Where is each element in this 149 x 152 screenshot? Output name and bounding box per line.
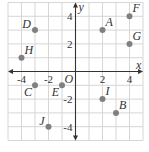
point-label-f: F bbox=[132, 1, 141, 15]
x-tick-label: 2 bbox=[100, 73, 106, 85]
x-tick-label: -2 bbox=[44, 73, 53, 85]
x-axis-label: x bbox=[135, 58, 142, 72]
point-label-g: G bbox=[133, 29, 142, 43]
point-label-e: E bbox=[51, 85, 60, 99]
y-tick-label: 4 bbox=[67, 10, 73, 22]
point-label-d: D bbox=[21, 17, 31, 31]
origin-label: O bbox=[65, 72, 74, 86]
y-axis-label: y bbox=[78, 0, 85, 14]
y-axis-arrow-down-icon bbox=[73, 136, 78, 141]
point-e bbox=[59, 82, 65, 88]
point-label-b: B bbox=[119, 98, 127, 112]
point-label-a: A bbox=[105, 15, 114, 29]
x-tick-label: -4 bbox=[17, 73, 27, 85]
point-label-i: I bbox=[105, 84, 111, 98]
point-label-h: H bbox=[24, 43, 35, 57]
x-axis-arrow-left-icon bbox=[8, 69, 13, 74]
point-j bbox=[46, 124, 52, 130]
y-axis-arrow-up-icon bbox=[73, 3, 78, 8]
point-label-c: C bbox=[24, 85, 33, 99]
coordinate-plane: xyO -4-22442-2-4 ABCDEFGHIJ bbox=[0, 0, 149, 152]
y-tick-label: 2 bbox=[67, 38, 73, 50]
point-c bbox=[32, 82, 38, 88]
y-tick-label: -4 bbox=[63, 121, 73, 133]
x-tick-label: 4 bbox=[127, 73, 133, 85]
point-d bbox=[32, 27, 38, 33]
points: ABCDEFGHIJ bbox=[19, 1, 142, 129]
y-tick-label: -2 bbox=[63, 93, 72, 105]
point-label-j: J bbox=[39, 114, 45, 128]
